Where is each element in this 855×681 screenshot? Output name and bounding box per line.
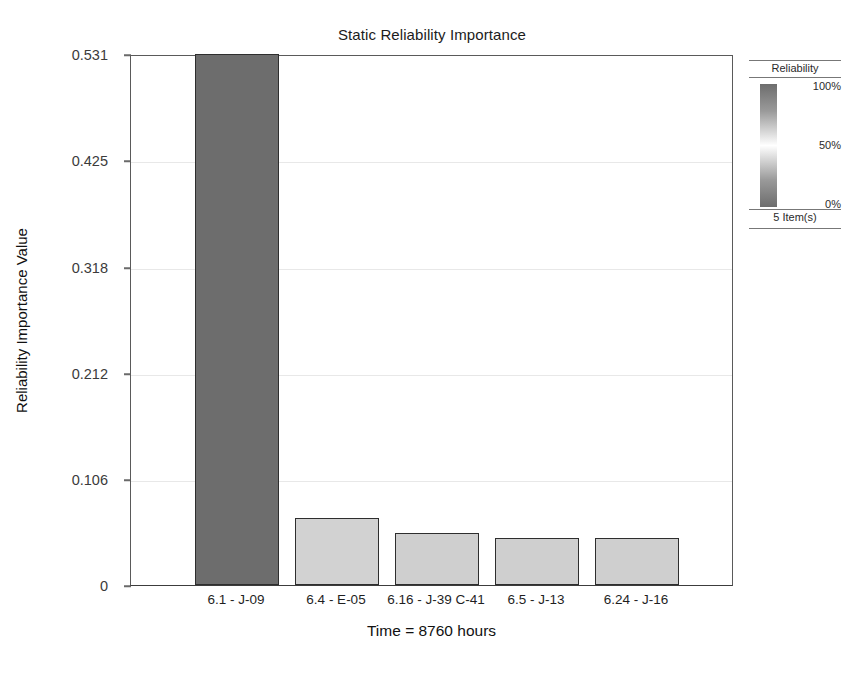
x-axis-tick-label: 6.16 - J-39 C-41 [387, 592, 485, 607]
y-axis-tick-label: 0.212 [72, 366, 108, 382]
y-axis-tick-label: 0.318 [72, 260, 108, 276]
x-axis-tick-label: 6.24 - J-16 [604, 592, 669, 607]
x-axis-tick-label: 6.4 - E-05 [306, 592, 365, 607]
x-axis-tick-label: 6.5 - J-13 [507, 592, 564, 607]
x-axis-tick-label: 6.1 - J-09 [207, 592, 264, 607]
legend-title: Reliability [747, 62, 843, 74]
bar-series [131, 56, 732, 585]
legend-rule-above-footer [749, 209, 841, 210]
y-axis-tick-label: 0.106 [72, 472, 108, 488]
chart-title: Static Reliability Importance [130, 26, 734, 43]
legend-scale-label-50: 50% [783, 139, 841, 151]
legend-scale-label-100: 100% [783, 80, 841, 92]
x-axis-title: Time = 8760 hours [130, 622, 733, 640]
static-reliability-importance-chart: Static Reliability Importance Reliabilit… [0, 0, 855, 681]
y-axis-tick-label: 0.531 [72, 47, 108, 63]
legend-gradient-bar [760, 84, 777, 207]
legend: Reliability 100% 50% 0% 5 Item(s) [747, 60, 843, 230]
bar[interactable] [195, 54, 279, 585]
plot-area [130, 55, 733, 586]
bar[interactable] [595, 538, 679, 585]
legend-rule-top [749, 60, 841, 61]
legend-rule-under-title [749, 77, 841, 78]
x-axis-tick-labels: 6.1 - J-096.4 - E-056.16 - J-39 C-416.5 … [130, 592, 733, 616]
bar[interactable] [495, 538, 579, 585]
legend-rule-bottom [749, 228, 841, 229]
legend-item-count: 5 Item(s) [747, 211, 843, 223]
bar[interactable] [295, 518, 379, 585]
y-axis-tick-label: 0.425 [72, 153, 108, 169]
y-axis-tick-label: 0 [100, 578, 108, 594]
bar[interactable] [395, 533, 479, 585]
y-axis-tick-labels: 00.1060.2120.3180.4250.531 [0, 55, 122, 586]
